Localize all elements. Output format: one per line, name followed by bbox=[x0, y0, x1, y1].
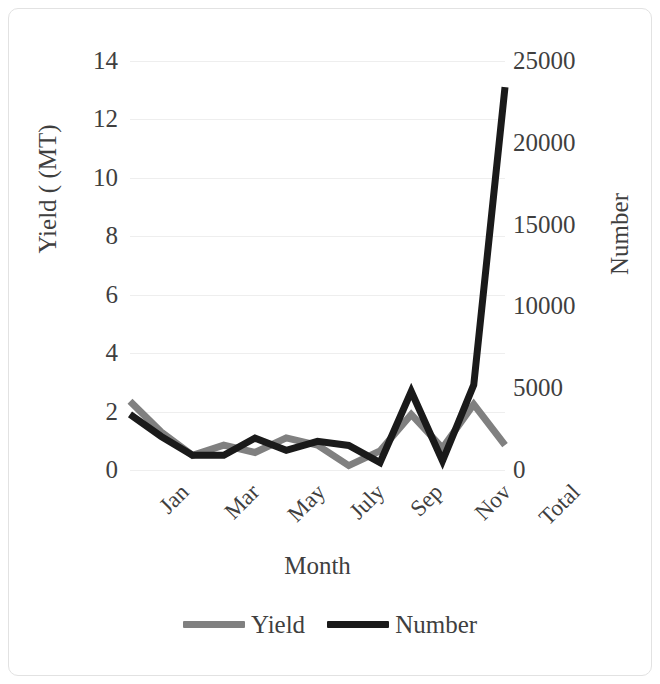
y-axis-left-tick-label: 0 bbox=[106, 457, 119, 482]
y-axis-left-tick-label: 14 bbox=[93, 48, 118, 73]
x-axis-ticks: JanMarMayJulySepNovTotal bbox=[130, 474, 505, 544]
legend-label: Number bbox=[395, 612, 477, 637]
series-line-yield bbox=[130, 401, 505, 465]
y-axis-left-tick-label: 8 bbox=[106, 223, 119, 248]
y-axis-left-tick-label: 4 bbox=[106, 340, 119, 365]
plot-area bbox=[130, 61, 505, 470]
y-axis-right-tick-label: 20000 bbox=[513, 130, 576, 155]
y-axis-left-tick-label: 12 bbox=[93, 106, 118, 131]
legend-label: Yield bbox=[251, 612, 305, 637]
legend-swatch-icon bbox=[327, 621, 389, 628]
x-axis-title: Month bbox=[130, 552, 505, 580]
y-axis-right-tick-label: 0 bbox=[513, 457, 526, 482]
x-axis-tick-label: May bbox=[283, 480, 329, 526]
legend-swatch-icon bbox=[183, 621, 245, 628]
y-axis-right-tick-label: 10000 bbox=[513, 293, 576, 318]
y-axis-right-ticks: 0500010000150002000025000 bbox=[513, 61, 623, 470]
x-axis-tick-label: July bbox=[345, 480, 388, 523]
x-axis-tick-label: Jan bbox=[155, 480, 193, 518]
series-layer bbox=[130, 61, 505, 470]
legend-entry[interactable]: Yield bbox=[183, 612, 305, 637]
x-axis-tick-label: Sep bbox=[406, 480, 447, 521]
chart-figure: Yield ( (MT) Number 02468101214 05000100… bbox=[0, 0, 660, 684]
gridline bbox=[130, 470, 505, 471]
y-axis-right-tick-label: 5000 bbox=[513, 375, 563, 400]
y-axis-right-tick-label: 25000 bbox=[513, 48, 576, 73]
y-axis-right-tick-label: 15000 bbox=[513, 212, 576, 237]
y-axis-left-ticks: 02468101214 bbox=[60, 61, 118, 470]
legend-entry[interactable]: Number bbox=[327, 612, 477, 637]
y-axis-left-tick-label: 6 bbox=[106, 282, 119, 307]
x-axis-tick-label: Mar bbox=[220, 480, 263, 523]
y-axis-left-tick-label: 10 bbox=[93, 165, 118, 190]
chart-legend: YieldNumber bbox=[0, 612, 660, 637]
y-axis-left-title: Yield ( (MT) bbox=[34, 89, 62, 289]
series-line-number bbox=[130, 87, 505, 462]
y-axis-left-tick-label: 2 bbox=[106, 399, 119, 424]
